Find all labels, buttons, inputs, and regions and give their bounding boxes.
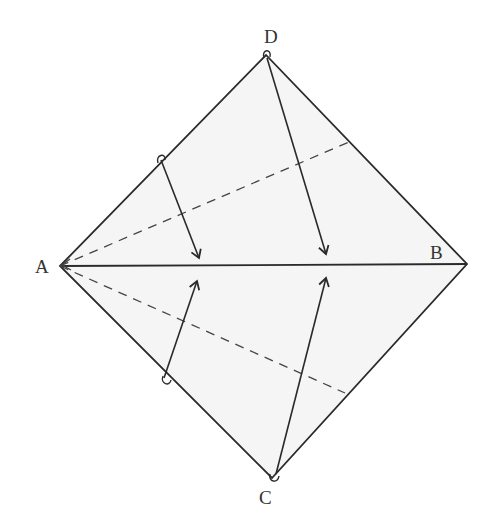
vertex-label-a: A	[35, 257, 49, 276]
vertex-label-b: B	[430, 243, 443, 262]
fold-diagram	[0, 0, 491, 530]
vertex-label-c: C	[259, 488, 272, 507]
vertex-label-d: D	[264, 27, 278, 46]
